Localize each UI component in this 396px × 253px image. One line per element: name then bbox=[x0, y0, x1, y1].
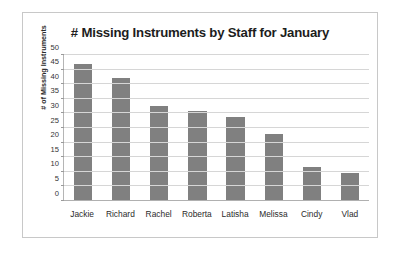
x-axis-label-cindy: Cindy bbox=[293, 209, 331, 219]
y-tick-mark bbox=[61, 200, 64, 201]
gridline bbox=[64, 156, 369, 157]
bar-jackie[interactable] bbox=[74, 64, 92, 201]
bar-slot bbox=[293, 55, 331, 201]
y-tick-mark bbox=[61, 83, 64, 84]
gridline bbox=[64, 69, 369, 70]
gridline bbox=[64, 200, 369, 201]
bar-slot bbox=[140, 55, 178, 201]
bar-latisha[interactable] bbox=[226, 117, 244, 201]
y-axis-title: # of Missing Instruments bbox=[39, 0, 48, 143]
gridline bbox=[64, 127, 369, 128]
x-axis-label-latisha: Latisha bbox=[216, 209, 254, 219]
chart-title: # Missing Instruments by Staff for Janua… bbox=[23, 25, 377, 40]
x-axis-label-roberta: Roberta bbox=[178, 209, 216, 219]
gridline bbox=[64, 171, 369, 172]
x-axis-label-jackie: Jackie bbox=[63, 209, 101, 219]
y-tick-label: 40 bbox=[51, 71, 59, 80]
y-tick-label: 0 bbox=[55, 188, 59, 197]
bar-richard[interactable] bbox=[112, 78, 130, 201]
bar-slot bbox=[217, 55, 255, 201]
chart-container: # Missing Instruments by Staff for Janua… bbox=[22, 12, 378, 238]
bar-cindy[interactable] bbox=[303, 167, 321, 201]
bar-rachel[interactable] bbox=[150, 106, 168, 201]
gridline bbox=[64, 112, 369, 113]
y-tick-mark bbox=[61, 171, 64, 172]
bar-slot bbox=[64, 55, 102, 201]
y-tick-label: 35 bbox=[51, 86, 59, 95]
y-tick-label: 45 bbox=[51, 57, 59, 66]
x-axis-labels: JackieRichardRachelRobertaLatishaMelissa… bbox=[63, 209, 369, 219]
y-tick-label: 20 bbox=[51, 130, 59, 139]
gridline bbox=[64, 54, 369, 55]
bar-slot bbox=[331, 55, 369, 201]
bar-slot bbox=[178, 55, 216, 201]
y-tick-label: 10 bbox=[51, 159, 59, 168]
x-axis-label-melissa: Melissa bbox=[254, 209, 292, 219]
y-tick-label: 30 bbox=[51, 100, 59, 109]
y-tick-mark bbox=[61, 156, 64, 157]
y-tick-label: 25 bbox=[51, 115, 59, 124]
plot-area: 05101520253035404550 bbox=[63, 55, 369, 201]
gridline bbox=[64, 98, 369, 99]
y-tick-mark bbox=[61, 98, 64, 99]
y-tick-mark bbox=[61, 54, 64, 55]
plot-wrapper: 05101520253035404550 bbox=[63, 55, 369, 201]
y-tick-mark bbox=[61, 112, 64, 113]
bar-melissa[interactable] bbox=[265, 134, 283, 201]
gridline bbox=[64, 185, 369, 186]
bar-vlad[interactable] bbox=[341, 173, 359, 201]
bar-slot bbox=[102, 55, 140, 201]
x-axis-label-richard: Richard bbox=[101, 209, 139, 219]
y-tick-label: 5 bbox=[55, 173, 59, 182]
y-tick-mark bbox=[61, 69, 64, 70]
y-tick-mark bbox=[61, 185, 64, 186]
x-axis-label-rachel: Rachel bbox=[140, 209, 178, 219]
bar-slot bbox=[255, 55, 293, 201]
gridline bbox=[64, 142, 369, 143]
bars-layer bbox=[64, 55, 369, 201]
y-tick-label: 50 bbox=[51, 42, 59, 51]
x-axis-label-vlad: Vlad bbox=[331, 209, 369, 219]
y-tick-mark bbox=[61, 127, 64, 128]
y-tick-mark bbox=[61, 142, 64, 143]
y-tick-label: 15 bbox=[51, 144, 59, 153]
gridline bbox=[64, 83, 369, 84]
